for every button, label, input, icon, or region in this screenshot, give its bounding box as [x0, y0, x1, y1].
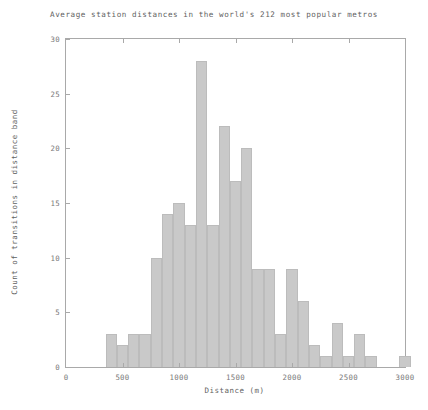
- x-tick-label: 1500: [226, 373, 245, 382]
- histogram-bar: [399, 356, 410, 367]
- x-tick-mark-top: [179, 39, 180, 43]
- x-tick-mark: [179, 363, 180, 367]
- histogram-bar: [128, 334, 139, 367]
- x-tick-label: 1000: [170, 373, 189, 382]
- histogram-bar: [332, 323, 343, 367]
- y-tick-label: 15: [36, 199, 60, 208]
- chart-title: Average station distances in the world's…: [0, 10, 428, 19]
- y-tick-label: 20: [36, 144, 60, 153]
- histogram-bar: [230, 181, 241, 367]
- histogram-bar: [219, 126, 230, 367]
- histogram-bar: [298, 301, 309, 367]
- histogram-bar: [207, 225, 218, 367]
- histogram-figure: Average station distances in the world's…: [0, 0, 428, 410]
- x-tick-mark-top: [292, 39, 293, 43]
- y-tick-label: 5: [36, 308, 60, 317]
- histogram-bar: [151, 258, 162, 367]
- x-tick-mark: [236, 363, 237, 367]
- y-tick-label: 0: [36, 363, 60, 372]
- y-tick-mark: [66, 312, 70, 313]
- histogram-bar: [241, 148, 252, 367]
- y-tick-mark: [66, 258, 70, 259]
- x-tick-label: 500: [115, 373, 129, 382]
- x-tick-mark: [292, 363, 293, 367]
- bar-series: [66, 39, 405, 367]
- y-tick-mark: [66, 39, 70, 40]
- y-axis-label: Count of transitions in distance band: [10, 38, 22, 366]
- x-tick-label: 3000: [396, 373, 415, 382]
- histogram-bar: [309, 345, 320, 367]
- x-tick-label: 2500: [339, 373, 358, 382]
- y-tick-mark: [66, 367, 70, 368]
- x-tick-mark: [123, 363, 124, 367]
- histogram-bar: [264, 269, 275, 367]
- histogram-bar: [286, 269, 297, 367]
- histogram-bar: [320, 356, 331, 367]
- histogram-bar: [139, 334, 150, 367]
- x-axis-label: Distance (m): [65, 386, 404, 395]
- histogram-bar: [196, 61, 207, 367]
- x-tick-label: 2000: [283, 373, 302, 382]
- y-tick-label: 30: [36, 35, 60, 44]
- histogram-bar: [354, 334, 365, 367]
- histogram-bar: [185, 225, 196, 367]
- histogram-bar: [106, 334, 117, 367]
- histogram-bar: [252, 269, 263, 367]
- x-tick-mark-top: [236, 39, 237, 43]
- y-tick-mark: [66, 203, 70, 204]
- x-tick-mark-top: [349, 39, 350, 43]
- y-tick-label: 25: [36, 89, 60, 98]
- histogram-bar: [365, 356, 376, 367]
- plot-area: 051015202530 050010001500200025003000: [65, 38, 406, 368]
- histogram-bar: [275, 334, 286, 367]
- y-tick-label: 10: [36, 253, 60, 262]
- x-tick-mark-top: [123, 39, 124, 43]
- histogram-bar: [162, 214, 173, 367]
- y-tick-mark: [66, 148, 70, 149]
- x-tick-mark: [349, 363, 350, 367]
- histogram-bar: [173, 203, 184, 367]
- x-tick-label: 0: [64, 373, 69, 382]
- y-tick-mark: [66, 94, 70, 95]
